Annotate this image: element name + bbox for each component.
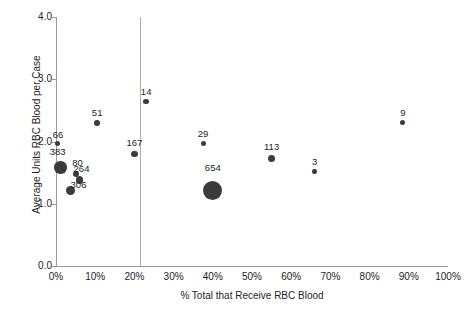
x-tick-label: 60%	[271, 272, 311, 282]
y-tick-mark	[52, 266, 56, 267]
x-tick-label: 100%	[428, 272, 466, 282]
data-point-bubble	[268, 155, 275, 162]
data-point-label: 66	[38, 130, 78, 140]
data-point-bubble	[143, 99, 149, 105]
x-axis-line	[56, 266, 448, 267]
data-point-label: 383	[38, 147, 78, 157]
y-axis-title: Average Units RBC Blood per Case	[31, 15, 42, 255]
data-point-label: 654	[193, 163, 233, 173]
y-tick-mark	[52, 204, 56, 205]
y-tick-mark	[52, 17, 56, 18]
data-point-label: 51	[77, 108, 117, 118]
data-point-label: 9	[383, 108, 423, 118]
x-tick-label: 30%	[154, 272, 194, 282]
data-point-label: 167	[114, 138, 154, 148]
data-point-label: 264	[62, 164, 102, 174]
x-axis-title: % Total that Receive RBC Blood	[56, 290, 448, 301]
data-point-label: 113	[252, 142, 292, 152]
data-point-bubble	[312, 169, 317, 174]
x-tick-label: 20%	[114, 272, 154, 282]
y-tick-label: 0.0	[22, 261, 52, 271]
x-tick-label: 40%	[193, 272, 233, 282]
data-point-bubble	[55, 141, 60, 146]
y-tick-mark	[52, 79, 56, 80]
x-tick-label: 90%	[389, 272, 429, 282]
data-point-bubble	[400, 120, 405, 125]
data-point-bubble	[203, 181, 222, 200]
x-tick-label: 10%	[75, 272, 115, 282]
data-point-bubble	[201, 141, 206, 146]
x-tick-label: 50%	[232, 272, 272, 282]
data-point-label: 14	[126, 87, 166, 97]
data-point-label: 29	[183, 129, 223, 139]
data-point-bubble	[131, 151, 138, 158]
data-point-label: 3	[295, 157, 335, 167]
x-tick-label: 0%	[36, 272, 76, 282]
data-point-label: 306	[59, 180, 99, 190]
data-point-bubble	[94, 120, 100, 126]
x-tick-label: 80%	[350, 272, 390, 282]
x-tick-label: 70%	[310, 272, 350, 282]
